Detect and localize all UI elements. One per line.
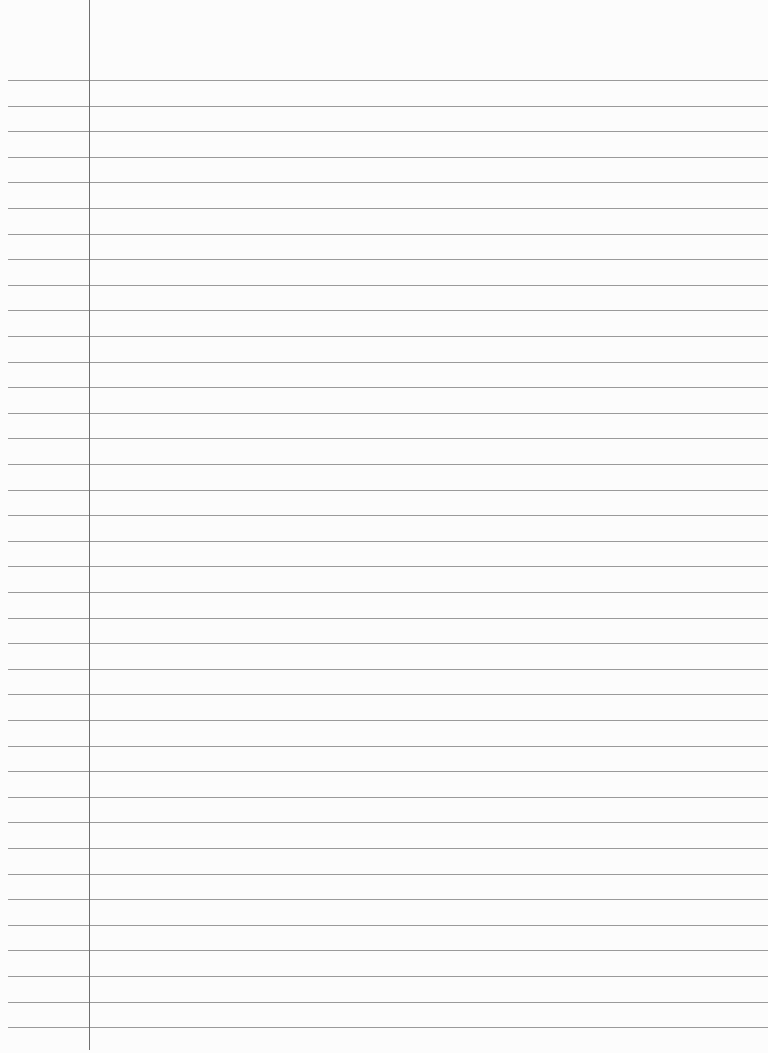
ruled-line xyxy=(8,822,768,823)
ruled-line xyxy=(8,285,768,286)
ruled-line xyxy=(8,541,768,542)
ruled-line xyxy=(8,976,768,977)
ruled-line xyxy=(8,720,768,721)
ruled-line xyxy=(8,771,768,772)
ruled-line xyxy=(8,848,768,849)
ruled-line xyxy=(8,746,768,747)
ruled-line xyxy=(8,362,768,363)
ruled-line xyxy=(8,566,768,567)
ruled-line xyxy=(8,1002,768,1003)
ruled-line xyxy=(8,208,768,209)
margin-line xyxy=(89,0,90,1050)
ruled-line xyxy=(8,310,768,311)
ruled-line xyxy=(8,259,768,260)
ruled-line xyxy=(8,1027,768,1028)
ruled-line xyxy=(8,234,768,235)
ruled-line xyxy=(8,694,768,695)
ruled-line xyxy=(8,413,768,414)
ruled-line xyxy=(8,490,768,491)
ruled-line xyxy=(8,157,768,158)
ruled-line xyxy=(8,925,768,926)
ruled-line xyxy=(8,797,768,798)
ruled-line xyxy=(8,387,768,388)
ruled-line xyxy=(8,131,768,132)
ruled-line xyxy=(8,899,768,900)
ruled-line xyxy=(8,643,768,644)
ruled-line xyxy=(8,950,768,951)
ruled-line xyxy=(8,592,768,593)
ruled-line xyxy=(8,336,768,337)
ruled-line xyxy=(8,464,768,465)
ruled-line xyxy=(8,515,768,516)
ruled-line xyxy=(8,618,768,619)
ruled-line xyxy=(8,874,768,875)
ruled-line xyxy=(8,438,768,439)
ruled-line xyxy=(8,106,768,107)
ruled-line xyxy=(8,669,768,670)
ruled-line xyxy=(8,182,768,183)
ruled-paper-page xyxy=(0,0,768,1053)
ruled-line xyxy=(8,80,768,81)
